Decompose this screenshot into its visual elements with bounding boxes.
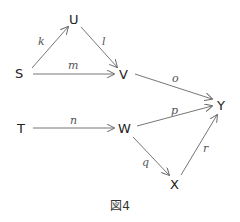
edge-u-v xyxy=(81,27,117,67)
edge-label-m: m xyxy=(68,59,78,72)
edge-x-y xyxy=(181,115,217,175)
path-diagram: k l m o p n q r S U V Y T W X 図4 xyxy=(0,0,240,222)
edge-label-r: r xyxy=(203,142,209,155)
edge-label-q: q xyxy=(142,156,149,169)
node-u: U xyxy=(69,12,79,27)
edge-label-l: l xyxy=(102,35,106,48)
edge-label-o: o xyxy=(172,72,179,85)
node-y: Y xyxy=(216,98,225,113)
figure-caption: 図4 xyxy=(110,199,130,213)
node-v: V xyxy=(119,67,128,82)
edge-w-x xyxy=(133,137,169,175)
edge-label-k: k xyxy=(38,35,45,48)
node-t: T xyxy=(16,121,25,136)
node-w: W xyxy=(118,121,131,136)
edge-label-n: n xyxy=(70,114,77,127)
node-s: S xyxy=(15,66,23,81)
node-x: X xyxy=(170,177,179,192)
edge-label-p: p xyxy=(171,104,178,117)
